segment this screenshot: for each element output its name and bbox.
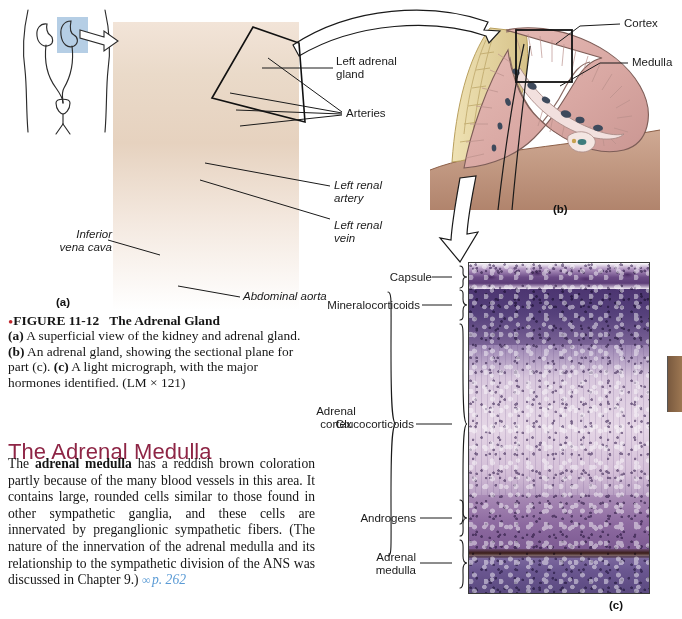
- panel-label-a: (a): [56, 296, 70, 308]
- label-glucocorticoids: Glucocorticoids: [320, 418, 414, 431]
- label-capsule: Capsule: [352, 271, 432, 284]
- body-rest: has a reddish brown coloration partly be…: [8, 456, 315, 587]
- body-term-adrenal-medulla: adrenal medulla: [35, 456, 132, 471]
- label-cortex: Cortex: [624, 17, 658, 30]
- figure-caption: •FIGURE 11-12 The Adrenal Gland (a) A su…: [8, 313, 313, 390]
- label-medulla: Medulla: [632, 56, 672, 69]
- adrenal-gland-section-illustration: [420, 10, 670, 210]
- label-arteries: Arteries: [346, 107, 386, 120]
- caption-part-c-tag: (c): [54, 359, 69, 374]
- adrenal-gland-micrograph: [468, 262, 650, 594]
- caption-figure-title: The Adrenal Gland: [109, 313, 220, 328]
- section-body-text: The adrenal medulla has a reddish brown …: [8, 456, 315, 589]
- page-edge-artifact: [667, 356, 682, 412]
- caption-figure-number: FIGURE 11-12: [13, 313, 99, 328]
- label-adrenal-medulla: Adrenal medulla: [344, 551, 416, 577]
- body-lead: The: [8, 456, 35, 471]
- crossref-link-icon[interactable]: ∞: [142, 573, 149, 587]
- caption-part-b-tag: (b): [8, 344, 24, 359]
- label-left-renal-artery: Left renal artery: [334, 179, 414, 205]
- label-mineralocorticoids: Mineralocorticoids: [302, 299, 420, 312]
- label-left-renal-vein: Left renal vein: [334, 219, 414, 245]
- micrograph-lipid-vacuole-texture: [469, 263, 649, 593]
- textbook-page: Left adrenal gland Arteries Left renal a…: [0, 0, 682, 619]
- crossref-page-link[interactable]: p. 262: [152, 572, 186, 587]
- panel-label-c: (c): [609, 599, 623, 611]
- label-inferior-vena-cava: Inferior vena cava: [42, 228, 112, 254]
- kidney-adrenal-illustration: [113, 22, 299, 310]
- caption-part-a-tag: (a): [8, 328, 24, 343]
- torso-locator-diagram: [8, 4, 128, 136]
- label-left-adrenal-gland: Left adrenal gland: [336, 55, 426, 81]
- caption-part-a-text: A superficial view of the kidney and adr…: [24, 328, 301, 343]
- panel-label-b: (b): [553, 203, 568, 215]
- label-androgens: Androgens: [330, 512, 416, 525]
